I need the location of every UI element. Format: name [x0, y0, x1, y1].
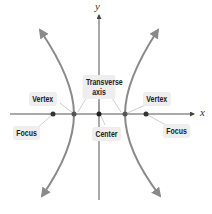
- transverse-axis-label-line2: axis: [86, 87, 112, 97]
- focus-right-point: [144, 112, 149, 117]
- vertex-right-point: [123, 112, 128, 117]
- right-branch: [125, 30, 160, 196]
- center-point: [97, 112, 102, 117]
- transverse-axis-label-line1: Transverse: [86, 77, 112, 87]
- focus-left-label: Focus: [13, 126, 40, 140]
- vertex-right-label: Vertex: [143, 92, 170, 106]
- vertex-left-label: Vertex: [29, 92, 56, 106]
- y-axis-label: y: [95, 0, 100, 12]
- transverse-axis-label: Transverse axis: [83, 75, 116, 99]
- left-branch: [40, 30, 74, 196]
- focus-left-point: [51, 112, 56, 117]
- hyperbola-diagram: [0, 0, 212, 214]
- focus-right-label: Focus: [163, 124, 190, 138]
- x-axis-label: x: [200, 106, 205, 118]
- vertex-left-point: [72, 112, 77, 117]
- center-label: Center: [92, 127, 121, 141]
